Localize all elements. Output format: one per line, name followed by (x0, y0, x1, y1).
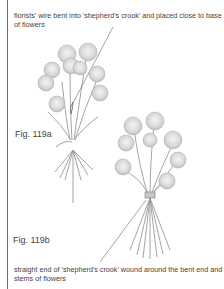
stems-a (48, 60, 98, 203)
bouquet-b (100, 112, 186, 262)
wire-wrap-b (145, 192, 155, 198)
figure-label-a: Fig. 119a (15, 129, 52, 139)
pointer-line-b (100, 200, 146, 262)
caption-bottom: straight end of 'shepherd's crook' wound… (14, 265, 224, 283)
flowers-a (38, 43, 108, 112)
bouquet-illustrations (0, 0, 224, 289)
bouquet-a (38, 27, 113, 203)
figure-label-b: Fig. 119b (13, 235, 50, 245)
